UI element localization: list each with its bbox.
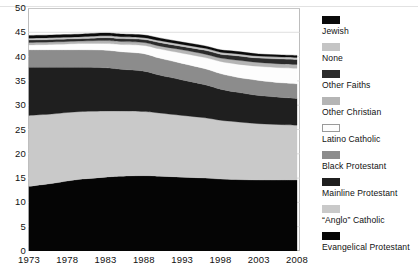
legend-swatch-icon bbox=[322, 205, 340, 213]
x-axis-tick-label: 1998 bbox=[209, 255, 231, 265]
y-axis: 05101520253035404550 bbox=[0, 0, 26, 278]
x-axis-tick-label: 2003 bbox=[248, 255, 270, 265]
x-axis-tick-label: 1978 bbox=[56, 255, 78, 265]
legend-swatch-icon bbox=[322, 97, 340, 105]
legend-swatch-icon bbox=[322, 178, 340, 186]
legend-item[interactable]: Other Christian bbox=[322, 97, 418, 124]
y-axis-tick-label: 30 bbox=[2, 100, 26, 110]
legend-swatch-icon bbox=[322, 70, 340, 78]
legend-item[interactable]: None bbox=[322, 43, 418, 70]
legend-item-label: Evangelical Protestant bbox=[322, 243, 410, 252]
legend-item[interactable]: Black Protestant bbox=[322, 151, 418, 178]
legend-item-label: None bbox=[322, 54, 343, 63]
y-axis-tick-label: 40 bbox=[2, 52, 26, 62]
area-series bbox=[29, 176, 297, 251]
legend-item-label: “Anglo” Catholic bbox=[322, 216, 385, 225]
y-axis-tick-label: 25 bbox=[2, 125, 26, 135]
legend-swatch-icon bbox=[322, 232, 340, 240]
x-axis-tick-label: 1983 bbox=[95, 255, 117, 265]
legend-swatch-icon bbox=[322, 16, 340, 24]
chart-page: 05101520253035404550 1973197819831988199… bbox=[0, 0, 418, 278]
legend-item[interactable]: Jewish bbox=[322, 16, 418, 43]
page-top-divider bbox=[0, 6, 418, 7]
legend-item[interactable]: “Anglo” Catholic bbox=[322, 205, 418, 232]
legend-swatch-icon bbox=[322, 151, 340, 159]
y-axis-tick-label: 5 bbox=[2, 222, 26, 232]
y-axis-tick-label: 50 bbox=[2, 3, 26, 13]
y-axis-tick-label: 45 bbox=[2, 27, 26, 37]
x-axis-tick-label: 2008 bbox=[286, 255, 308, 265]
legend-item[interactable]: Other Faiths bbox=[322, 70, 418, 97]
y-axis-tick-label: 15 bbox=[2, 173, 26, 183]
y-axis-tick-label: 20 bbox=[2, 149, 26, 159]
y-axis-tick-label: 35 bbox=[2, 76, 26, 86]
x-axis-tick-label: 1988 bbox=[133, 255, 155, 265]
legend-item-label: Other Christian bbox=[322, 108, 381, 117]
legend-item[interactable]: Latino Catholic bbox=[322, 124, 418, 151]
chart-legend: JewishNoneOther FaithsOther ChristianLat… bbox=[322, 16, 418, 259]
legend-item-label: Black Protestant bbox=[322, 162, 386, 171]
legend-item-label: Other Faiths bbox=[322, 81, 370, 90]
legend-item[interactable]: Mainline Protestant bbox=[322, 178, 418, 205]
legend-item-label: Latino Catholic bbox=[322, 135, 380, 144]
legend-item[interactable]: Evangelical Protestant bbox=[322, 232, 418, 259]
legend-swatch-icon bbox=[322, 43, 340, 51]
x-axis-tick-label: 1993 bbox=[171, 255, 193, 265]
legend-item-label: Jewish bbox=[322, 27, 349, 36]
legend-swatch-icon bbox=[322, 124, 340, 132]
x-axis-tick-label: 1973 bbox=[18, 255, 40, 265]
stacked-area-plot bbox=[28, 8, 300, 251]
y-axis-tick-label: 10 bbox=[2, 197, 26, 207]
legend-item-label: Mainline Protestant bbox=[322, 189, 397, 198]
